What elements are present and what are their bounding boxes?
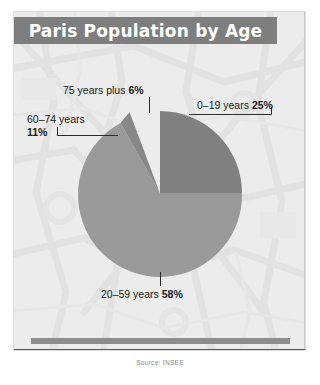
pie-label-75-years-plus: 75 years plus 6% (63, 84, 144, 97)
pie-label-20-59-years-value: 58% (162, 288, 183, 300)
pie-label-60-74-years-value: 11% (27, 126, 47, 138)
pie-label-0-19-years-name: 0–19 years (197, 99, 249, 111)
pie-label-60-74-years-name: 60–74 years (27, 113, 85, 126)
pie-label-0-19-years: 0–19 years 25% (197, 99, 273, 112)
pie-label-20-59-years: 20–59 years 58% (101, 288, 183, 301)
footer-accent-bar (31, 338, 290, 344)
footer-rule (14, 349, 305, 350)
pie-label-60-74-years: 60–74 years 11% (27, 113, 85, 139)
pie-label-75-years-plus-value: 6% (128, 84, 143, 96)
pie-chart (0, 0, 320, 385)
pie-label-20-59-years-name: 20–59 years (101, 288, 159, 300)
pie-label-0-19-years-value: 25% (252, 99, 273, 111)
source-note: Source: INSEE (0, 359, 320, 366)
pie-label-75-years-plus-name: 75 years plus (63, 84, 125, 96)
chart-screenshot: Paris Population by Age 75 years plus 6%… (0, 0, 320, 385)
pie-slice-0-19-years[interactable] (160, 111, 242, 193)
